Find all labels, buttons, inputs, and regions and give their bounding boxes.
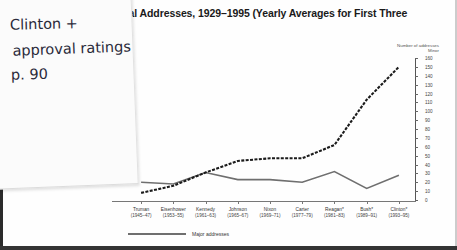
scanned-page: dential Addresses, 1929–1995 (Yearly Ave… <box>0 0 457 250</box>
y-tick-mark <box>415 102 418 103</box>
y-axis-line <box>415 58 416 202</box>
y-axis-caption-line2: Minor <box>369 48 439 53</box>
x-tick-mark <box>270 201 271 204</box>
scan-edge-bottom <box>0 246 457 250</box>
y-tick-label: 40 <box>425 162 439 167</box>
y-tick-mark <box>415 156 418 157</box>
sticky-note-line-2: approval ratings <box>12 34 139 64</box>
y-tick-label: 60 <box>425 144 439 149</box>
y-tick-label: 0 <box>425 198 439 203</box>
chart-legend: Major addresses <box>128 231 229 237</box>
y-tick-mark <box>415 58 418 59</box>
y-tick-mark <box>415 191 418 192</box>
y-tick-mark <box>415 138 418 139</box>
y-tick-mark <box>415 94 418 95</box>
figure-title: dential Addresses, 1929–1995 (Yearly Ave… <box>104 7 444 19</box>
x-tick-label: Clinton*(1993–95) <box>369 207 429 220</box>
legend-swatch-major-addresses <box>128 233 186 235</box>
y-tick-label: 150 <box>425 64 439 69</box>
sticky-note-line-3: p. 90 <box>11 60 139 87</box>
x-tick-mark <box>238 201 239 204</box>
y-tick-mark <box>415 76 418 77</box>
legend-label-major-addresses: Major addresses <box>192 231 229 237</box>
series-line-minor-addresses <box>141 67 399 193</box>
y-tick-mark <box>415 147 418 148</box>
y-tick-label: 100 <box>425 109 439 114</box>
x-tick-mark <box>367 201 368 204</box>
x-tick-mark <box>334 201 335 204</box>
y-tick-label: 160 <box>425 56 439 61</box>
x-tick-mark <box>206 201 207 204</box>
x-tick-mark <box>302 201 303 204</box>
x-tick-mark <box>399 201 400 204</box>
y-tick-label: 120 <box>425 91 439 96</box>
y-tick-mark <box>415 111 418 112</box>
y-tick-label: 20 <box>425 180 439 185</box>
y-tick-label: 110 <box>425 100 439 105</box>
x-label-years: (1993–95) <box>369 213 429 219</box>
x-label-name: Clinton* <box>390 207 407 212</box>
y-tick-label: 90 <box>425 118 439 123</box>
y-tick-mark <box>415 129 418 130</box>
sticky-note-text: Clinton + approval ratings p. 90 <box>10 10 139 87</box>
x-tick-mark <box>173 201 174 204</box>
y-tick-mark <box>415 173 418 174</box>
y-tick-label: 80 <box>425 127 439 132</box>
handwritten-sticky-note: Clinton + approval ratings p. 90 <box>0 0 139 190</box>
y-tick-mark <box>415 182 418 183</box>
y-tick-label: 130 <box>425 82 439 87</box>
x-axis-line <box>112 201 416 202</box>
y-tick-label: 140 <box>425 73 439 78</box>
y-tick-mark <box>415 85 418 86</box>
y-tick-label: 10 <box>425 189 439 194</box>
y-tick-mark <box>415 67 418 68</box>
x-tick-mark <box>141 201 142 204</box>
y-tick-mark <box>415 120 418 121</box>
y-tick-label: 50 <box>425 153 439 158</box>
y-tick-label: 30 <box>425 171 439 176</box>
plot-area <box>125 58 415 200</box>
series-line-major-addresses <box>141 172 399 189</box>
y-tick-mark <box>415 200 418 201</box>
y-tick-mark <box>415 165 418 166</box>
y-tick-label: 70 <box>425 135 439 140</box>
y-axis-caption: Number of addresses Minor <box>369 43 439 54</box>
sticky-note-line-1: Clinton + <box>10 15 78 32</box>
